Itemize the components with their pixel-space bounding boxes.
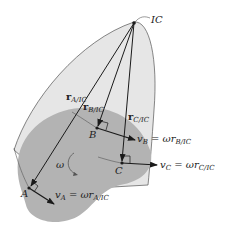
ic-label: IC [150, 14, 163, 25]
point-b-label: B [88, 129, 96, 140]
omega-label: ω [56, 159, 64, 170]
point-a-label: A [20, 188, 28, 199]
instantaneous-center-diagram: IC ω A B C rA/IC rB/IC rC/IC vA = ωrA/IC… [0, 0, 226, 239]
point-c-label: C [115, 165, 123, 176]
v-c-label: vC = ωrC/IC [160, 159, 215, 172]
